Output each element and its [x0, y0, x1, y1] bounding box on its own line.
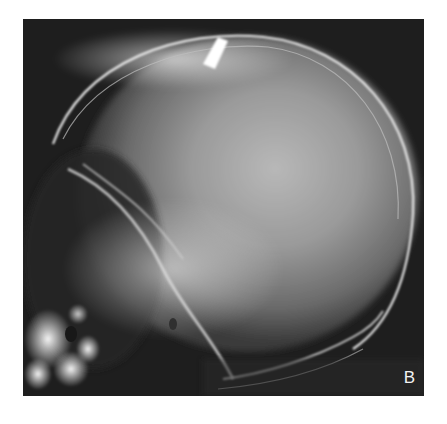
panel-label: B — [404, 368, 415, 388]
xray-image-panel: B — [23, 19, 424, 396]
skull-radiograph — [23, 19, 424, 396]
